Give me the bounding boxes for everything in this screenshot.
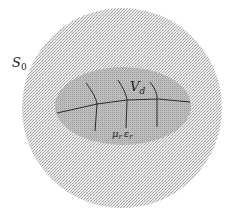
outer-region-label: S0 — [12, 55, 27, 72]
diagram-canvas: S0 Vd μrεr — [0, 0, 231, 214]
